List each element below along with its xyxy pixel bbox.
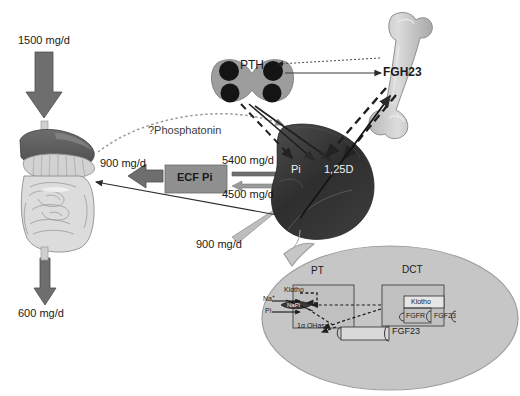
ecf-pi-label: ECF Pi [177, 172, 212, 183]
fecal-loss-arrow [34, 258, 56, 305]
diagram-canvas: 1500 mg/d 600 mg/d 900 mg/d ECF Pi 5400 … [0, 0, 520, 396]
phosphate-label: Pi [265, 307, 271, 314]
pt-label: PT [311, 266, 324, 276]
fgf23-to-pth-dotted [278, 58, 380, 64]
klotho-pt-label: Klotho [284, 286, 304, 293]
sodium-label: Na+ [263, 294, 275, 302]
nephron-inset [262, 243, 518, 390]
fgfr-label: FGFR [406, 312, 425, 319]
pth-label: PTH [240, 59, 264, 71]
dietary-intake-label: 1500 mg/d [18, 35, 70, 46]
filtered-load-label: 5400 mg/d [222, 155, 274, 166]
klotho-dct-label: Klotho [411, 298, 431, 305]
phosphatonin-label: ?Phosphatonin [148, 125, 221, 136]
kidney-vitd-label: 1,25D [324, 164, 353, 175]
fgf23-pt-ligand [341, 326, 389, 341]
gut-illustration [20, 121, 94, 260]
fgf23-dct-label: FGF23 [434, 312, 456, 319]
fgf23-pt-label: FGF23 [392, 327, 420, 336]
dietary-intake-arrow [26, 52, 62, 118]
dct-label: DCT [402, 265, 423, 275]
reabsorption-label: 4500 mg/d [222, 189, 274, 200]
urinary-excretion-label: 900 mg/d [196, 239, 242, 250]
intestinal-absorption-label: 900 mg/d [100, 158, 146, 169]
kidney-pi-label: Pi [291, 164, 301, 175]
fecal-loss-label: 600 mg/d [18, 308, 64, 319]
napi-label: NaPi [287, 302, 300, 308]
ohase-label: 1α OHase [297, 322, 329, 329]
fgf23-bone-label: FGH23 [383, 66, 422, 78]
